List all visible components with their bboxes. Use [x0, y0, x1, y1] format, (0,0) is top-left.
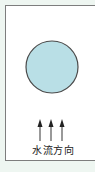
diagram-canvas: 水流方向	[0, 0, 95, 172]
flow-arrow-icon-2	[49, 119, 54, 141]
circular-object	[26, 41, 78, 93]
flow-arrow-icon-3	[60, 119, 65, 141]
flow-direction-label: 水流方向	[28, 145, 78, 157]
flow-arrow-icon-1	[38, 119, 43, 141]
